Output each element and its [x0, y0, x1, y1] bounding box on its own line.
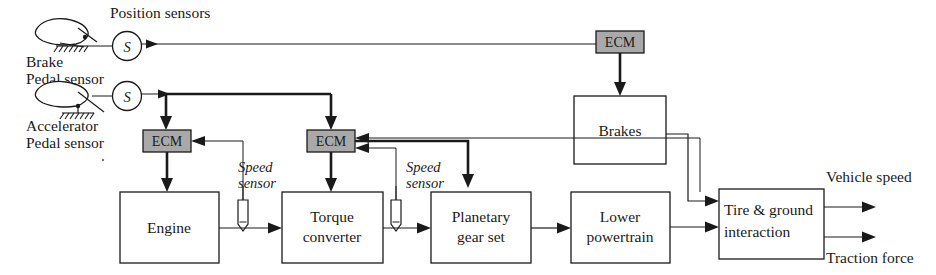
torque-converter-label-line1: Torque [310, 208, 354, 225]
engine-label: Engine [147, 219, 191, 236]
tire-ground-label-line2: interaction [724, 223, 791, 240]
ecm-transmission-label: ECM [316, 134, 347, 149]
lower-powertrain-to-tire-connector [670, 222, 719, 233]
powertrain-block-diagram: Brake Pedal sensor Accelerator Pedal sen… [0, 0, 936, 275]
ecm-transmission-to-torque-converter-connector [325, 152, 337, 192]
brake-sensor-to-ecm-connector [142, 40, 596, 49]
speed-sensor-1-label-line2: sensor [238, 175, 276, 191]
lower-powertrain-label-line2: powertrain [586, 228, 653, 245]
engine-to-torque-converter-connector [219, 223, 282, 234]
tire-ground-label-line1: Tire & ground [724, 201, 813, 218]
brake-sensor-symbol: S [123, 39, 131, 55]
brakes-to-tire-connector [666, 134, 719, 207]
ecm-engine-to-engine-connector [161, 152, 173, 192]
speed-sensor-2-label-line1: Speed [406, 159, 441, 175]
planetary-to-lower-powertrain-connector [531, 223, 571, 234]
vehicle-speed-output-connector [824, 202, 876, 213]
planetary-label-line2: gear set [457, 228, 505, 245]
ecm-brake-label: ECM [605, 35, 636, 50]
speed-sensor-1-feedback-connector [191, 136, 243, 200]
accelerator-pedal-label-line2: Pedal sensor [26, 134, 105, 151]
speed-sensor-2-label-line2: sensor [406, 175, 444, 191]
traction-force-output-connector [824, 232, 876, 243]
torque-converter-to-planetary-connector [383, 223, 431, 234]
vehicle-speed-label: Vehicle speed [826, 168, 912, 185]
position-sensors-title: Position sensors [110, 4, 210, 21]
planetary-label-line1: Planetary [452, 208, 511, 225]
traction-force-label: Traction force [826, 249, 914, 266]
brake-ground-hatch [54, 46, 88, 52]
accelerator-sensor-symbol: S [123, 89, 131, 105]
brakes-label: Brakes [598, 122, 641, 139]
ecm-engine-label: ECM [152, 134, 183, 149]
ecm-brake-to-brakes-connector [614, 53, 626, 96]
accelerator-pedal-icon [35, 81, 104, 119]
diagram-canvas: Brake Pedal sensor Accelerator Pedal sen… [0, 0, 936, 275]
accelerator-pedal-label-line1: Accelerator [26, 117, 99, 134]
accelerator-sensor-bus [142, 90, 337, 131]
brake-pedal-icon [35, 19, 97, 52]
brake-pedal-label-line1: Brake [26, 53, 63, 70]
lower-powertrain-label-line1: Lower [600, 208, 641, 225]
torque-converter-label-line2: converter [303, 228, 362, 245]
